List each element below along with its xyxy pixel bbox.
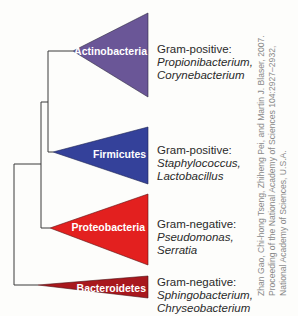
firmicutes-description: Gram-positive: Staphylococcus, Lactobaci… — [157, 144, 241, 183]
credit-line: Proceeding of the National Academy of Sc… — [267, 16, 278, 296]
actinobacteria-label: Actinobacteria — [74, 45, 147, 57]
clade-actinobacteria: Actinobacteria — [73, 13, 148, 97]
example-genus: Propionibacterium, — [157, 56, 253, 69]
gram-stain-label: Gram-positive: — [157, 144, 241, 157]
gram-stain-label: Gram-negative: — [157, 276, 253, 289]
tree-branches — [14, 51, 73, 285]
clade-proteobacteria: Proteobacteria — [50, 194, 148, 265]
example-genus: Lactobacillus — [157, 170, 241, 183]
bacteroidetes-label: Bacteroidetes — [77, 282, 147, 294]
firmicutes-label: Firmicutes — [93, 148, 146, 160]
clade-bacteroidetes: Bacteroidetes — [38, 276, 148, 298]
example-genus: Staphylococcus, — [157, 157, 241, 170]
proteobacteria-description: Gram-negative: Pseudomonas, Serratia — [157, 218, 236, 257]
example-genus: Pseudomonas, — [157, 231, 236, 244]
proteobacteria-label: Proteobacteria — [71, 221, 145, 233]
example-genus: Sphingobacterium, — [157, 289, 253, 302]
source-credit: Zhan Gao, Chi-hong Tseng, Zhiheng Pei, a… — [256, 16, 289, 296]
actinobacteria-description: Gram-positive: Propionibacterium, Coryne… — [157, 43, 253, 82]
credit-line: Zhan Gao, Chi-hong Tseng, Zhiheng Pei, a… — [256, 16, 267, 296]
gram-stain-label: Gram-positive: — [157, 43, 253, 56]
example-genus: Corynebacterium — [157, 69, 253, 82]
example-genus: Chryseobacterium — [157, 302, 253, 315]
clade-firmicutes: Firmicutes — [53, 127, 148, 184]
gram-stain-label: Gram-negative: — [157, 218, 236, 231]
example-genus: Serratia — [157, 244, 236, 257]
credit-line: National Academy of Sciences, U.S.A. — [278, 16, 289, 296]
bacteroidetes-description: Gram-negative: Sphingobacterium, Chryseo… — [157, 276, 253, 315]
phylogenetic-tree: Actinobacteria Firmicutes Proteobacteria… — [0, 0, 298, 316]
